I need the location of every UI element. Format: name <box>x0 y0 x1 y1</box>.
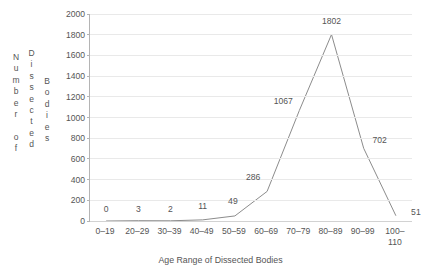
gridline <box>90 14 412 15</box>
x-axis-tick-label: 60–69 <box>249 226 283 237</box>
y-title-letter: D <box>28 48 34 59</box>
x-axis-tick-label: 80–89 <box>314 226 348 237</box>
y-axis-title-column-dissected: D i s s e c t e d <box>24 48 39 151</box>
y-axis-tick-mark <box>87 34 90 35</box>
y-axis-tick-label: 800 <box>71 134 85 143</box>
y-title-letter: e <box>45 122 50 133</box>
y-title-letter: N <box>13 52 19 63</box>
y-axis-tick-mark <box>87 117 90 118</box>
y-axis-tick-mark <box>87 179 90 180</box>
gridline <box>90 221 412 222</box>
y-axis-title-column-number: N u m b e r o f <box>8 52 24 155</box>
y-axis-tick-mark <box>87 14 90 15</box>
x-axis-tick-label: 100– 110 <box>378 226 412 247</box>
data-point-label: 1067 <box>274 96 293 105</box>
gridline <box>90 200 412 201</box>
y-axis-tick-label: 1200 <box>66 92 85 101</box>
y-title-letter: i <box>46 110 48 121</box>
y-axis-title: N u m b e r o f D i s s e c t e d B o d … <box>8 40 64 230</box>
gridline <box>90 158 412 159</box>
y-axis-tick-label: 600 <box>71 154 85 163</box>
y-axis-tick-label: 1400 <box>66 72 85 81</box>
x-axis-tick-label: 90–99 <box>346 226 380 237</box>
data-point-label: 11 <box>198 201 207 210</box>
y-title-letter: i <box>31 59 33 70</box>
x-axis-tick-label: 30–39 <box>153 226 187 237</box>
y-title-letter: c <box>29 105 33 116</box>
data-point-label: 286 <box>246 173 260 182</box>
plot-area: 0200400600800100012001400160018002000032… <box>89 14 412 221</box>
line-chart: N u m b e r o f D i s s e c t e d B o d … <box>0 0 441 276</box>
y-title-letter: b <box>14 86 19 97</box>
y-title-letter: m <box>12 75 19 86</box>
x-axis-title: Age Range of Dissected Bodies <box>0 255 441 266</box>
y-title-letter: s <box>45 133 49 144</box>
x-axis-tick-label: 40–49 <box>185 226 219 237</box>
y-title-letter: e <box>29 128 34 139</box>
x-axis-tick-label: 0–19 <box>88 226 122 237</box>
x-axis-tick-label: 70–79 <box>281 226 315 237</box>
y-title-letter: B <box>44 76 50 87</box>
y-axis-tick-label: 1800 <box>66 30 85 39</box>
y-axis-tick-mark <box>87 200 90 201</box>
y-axis-tick-label: 1000 <box>66 113 85 122</box>
y-axis-tick-label: 2000 <box>66 10 85 19</box>
series-polyline <box>106 34 396 221</box>
gridline <box>90 34 412 35</box>
y-title-letter: e <box>29 94 34 105</box>
x-axis-tick-label: 50–59 <box>217 226 251 237</box>
data-point-label: 3 <box>136 204 141 213</box>
gridline <box>90 76 412 77</box>
data-point-label: 2 <box>168 204 173 213</box>
y-title-letter: d <box>29 139 34 150</box>
y-axis-tick-mark <box>87 76 90 77</box>
y-axis-tick-label: 400 <box>71 175 85 184</box>
y-axis-tick-label: 0 <box>80 217 85 226</box>
data-point-label: 51 <box>411 207 421 216</box>
y-axis-tick-mark <box>87 221 90 222</box>
y-title-letter: o <box>14 132 19 143</box>
gridline <box>90 55 412 56</box>
y-title-letter: r <box>15 109 18 120</box>
y-axis-tick-mark <box>87 138 90 139</box>
data-point-label: 702 <box>373 136 387 145</box>
y-axis-tick-mark <box>87 96 90 97</box>
gridline <box>90 117 412 118</box>
y-axis-tick-mark <box>87 158 90 159</box>
y-axis-title-column-bodies: B o d i e s <box>39 76 55 144</box>
y-title-letter: f <box>15 143 17 154</box>
y-title-letter: t <box>30 116 32 127</box>
y-axis-tick-label: 200 <box>71 196 85 205</box>
y-title-letter: e <box>14 98 19 109</box>
y-title-letter: s <box>29 82 33 93</box>
y-axis-tick-label: 1600 <box>66 51 85 60</box>
y-title-letter: o <box>45 87 50 98</box>
data-point-label: 1802 <box>322 17 341 26</box>
x-axis-labels: 0–1920–2930–3940–4950–5960–6970–7980–899… <box>89 226 411 254</box>
y-title-letter: s <box>29 71 33 82</box>
y-axis-tick-mark <box>87 55 90 56</box>
gridline <box>90 96 412 97</box>
gridline <box>90 138 412 139</box>
data-point-label: 0 <box>104 205 109 214</box>
data-point-label: 49 <box>228 196 238 205</box>
y-title-letter: u <box>14 63 19 74</box>
x-axis-tick-label: 20–29 <box>120 226 154 237</box>
y-title-letter: d <box>45 99 50 110</box>
